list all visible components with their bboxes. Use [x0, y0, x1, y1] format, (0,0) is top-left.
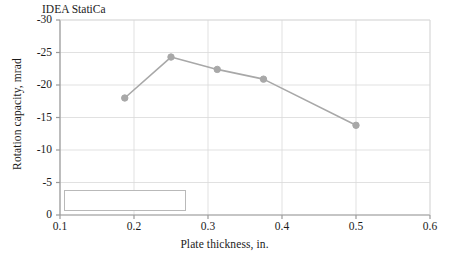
y-tick-label: -5 [18, 176, 52, 188]
series-line [125, 57, 356, 125]
x-tick-label: 0.6 [410, 220, 449, 232]
gridlines-group [60, 20, 430, 215]
y-tick-label: 0 [18, 208, 52, 220]
y-tick-label: -10 [18, 143, 52, 155]
x-tick-label: 0.5 [336, 220, 376, 232]
data-point-marker[interactable] [353, 122, 359, 128]
legend-box[interactable] [64, 190, 186, 211]
y-axis-title: Rotation capacity, mrad [11, 29, 23, 199]
chart-figure: -30-25-20-15-10-50 0.10.20.30.40.50.6 ID… [0, 0, 449, 264]
x-tick-label: 0.3 [188, 220, 228, 232]
data-point-marker[interactable] [214, 66, 220, 72]
data-point-marker[interactable] [168, 54, 174, 60]
x-tick-label: 0.4 [262, 220, 302, 232]
legend-entry-label: IDEA StatiCa [42, 3, 106, 15]
y-tick-label: -20 [18, 78, 52, 90]
data-point-marker[interactable] [122, 95, 128, 101]
y-tick-label: -25 [18, 46, 52, 58]
x-tick-label: 0.1 [40, 220, 80, 232]
x-axis-title: Plate thickness, in. [0, 238, 449, 250]
data-point-marker[interactable] [260, 76, 266, 82]
x-tick-label: 0.2 [114, 220, 154, 232]
y-tick-label: -15 [18, 111, 52, 123]
